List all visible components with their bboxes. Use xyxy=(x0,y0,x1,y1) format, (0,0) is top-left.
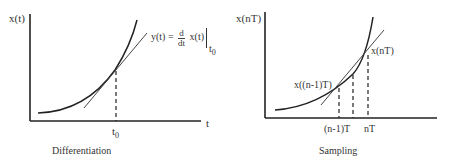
t0-sub: 0 xyxy=(115,131,119,140)
annotation-lhs: y(t) = xyxy=(151,31,174,42)
secant-line xyxy=(321,30,384,105)
tick-label-n: nT xyxy=(364,124,375,134)
t0-tick-label: t0 xyxy=(112,126,119,137)
y-axis-label: x(nT) xyxy=(236,13,261,24)
evaluation-point: t0 xyxy=(209,44,216,54)
fraction-numerator: d xyxy=(178,29,185,39)
derivative-fraction: d dt xyxy=(178,29,185,48)
sampling-plot xyxy=(265,12,437,118)
y-axis-label: x(t) xyxy=(9,13,25,24)
diagram-canvas xyxy=(0,0,451,162)
annotation-rhs: x(t) xyxy=(190,31,204,42)
caption-sampling: Sampling xyxy=(319,146,357,156)
evaluation-bar xyxy=(206,28,207,48)
signal-curve xyxy=(38,20,137,113)
caption-differentiation: Differentiation xyxy=(52,146,111,156)
x-axis-label: t xyxy=(206,118,209,129)
point-label-n-minus-1: x((n-1)T) xyxy=(294,80,332,90)
point-label-n: x(nT) xyxy=(371,46,394,56)
tick-label-n-minus-1: (n-1)T xyxy=(324,124,350,134)
tangent-line xyxy=(84,33,147,108)
fraction-denominator: dt xyxy=(178,39,185,48)
signal-curve xyxy=(275,17,373,110)
eval-sub: 0 xyxy=(212,48,216,57)
derivative-annotation: y(t) = d dt x(t) xyxy=(151,28,207,48)
